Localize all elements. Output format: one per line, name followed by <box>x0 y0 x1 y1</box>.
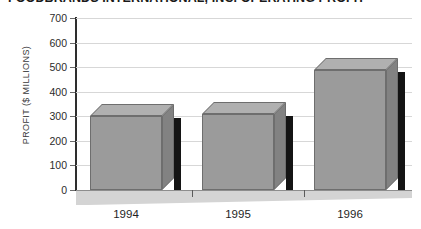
bar-front-face <box>90 116 162 190</box>
bar-1994 <box>90 116 162 190</box>
x-tick-label-1995: 1995 <box>193 208 283 220</box>
y-tick-mark <box>70 190 75 191</box>
y-tick-label: 100 <box>27 160 67 171</box>
y-tick-mark <box>70 18 75 19</box>
y-tick-mark <box>70 165 75 166</box>
x-tick-label-1994: 1994 <box>81 208 171 220</box>
y-tick-mark <box>70 67 75 68</box>
y-tick-label: 200 <box>27 136 67 147</box>
bar-side-face <box>274 102 286 190</box>
chart-title: FOODBRANDS INTERNATIONAL, INC. OPERATING… <box>8 0 413 5</box>
gridline <box>76 18 412 19</box>
bar-1995 <box>202 114 274 190</box>
bar-top-face <box>314 58 398 70</box>
bar-side-face <box>162 104 174 190</box>
bar-top-face <box>90 104 174 116</box>
y-tick-label: 400 <box>27 87 67 98</box>
gridline <box>76 43 412 44</box>
x-tick-mark <box>304 190 305 197</box>
bar-1996 <box>314 70 386 190</box>
bar-side-face <box>386 58 398 190</box>
y-tick-label: 300 <box>27 111 67 122</box>
y-tick-label: 0 <box>27 185 67 196</box>
bar-shadow <box>174 118 181 190</box>
x-tick-label-1996: 1996 <box>305 208 395 220</box>
chart-floor-edge <box>76 190 412 191</box>
bar-front-face <box>314 70 386 190</box>
x-tick-mark <box>192 190 193 197</box>
bar-shadow <box>398 72 405 190</box>
y-tick-label: 500 <box>27 62 67 73</box>
bar-front-face <box>202 114 274 190</box>
y-tick-label: 600 <box>27 38 67 49</box>
bar-shadow <box>286 116 293 190</box>
chart-floor-plate <box>76 190 412 205</box>
y-tick-mark <box>70 92 75 93</box>
y-tick-mark <box>70 116 75 117</box>
bar-top-face <box>202 102 286 114</box>
y-tick-label: 700 <box>27 13 67 24</box>
plot-area <box>76 18 412 190</box>
y-tick-mark <box>70 141 75 142</box>
y-tick-mark <box>70 43 75 44</box>
